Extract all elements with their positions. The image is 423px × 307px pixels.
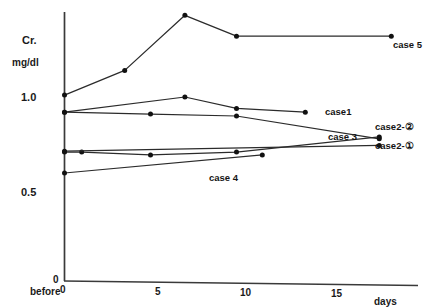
data-point [234,150,239,155]
origin-label: 0 [53,274,59,285]
creatinine-line-chart: Cr. mg/dl 1.0 0.5 0 before 0 5 10 15 day… [0,0,423,307]
series-layer [62,13,394,176]
data-point [389,34,394,39]
data-point [234,34,239,39]
data-point [62,149,67,154]
x-tick-label-5: 5 [155,286,161,297]
series-label-case2-2: case2-② [375,121,414,132]
x-axis-line [64,281,418,286]
x-tick-label-0: 0 [60,284,66,295]
x-tick-label-before: before [30,286,61,297]
data-point [234,106,239,111]
data-point [148,152,153,157]
x-tick-label-15: 15 [331,288,343,299]
series-label-case5: case 5 [393,39,423,50]
x-axis-title-days: days [374,296,397,307]
y-tick-label-0-5: 0.5 [21,186,36,198]
y-axis-title-line2: mg/dl [12,57,39,68]
y-tick-label-1-0: 1.0 [21,91,36,103]
data-point [260,152,265,157]
data-point [122,68,127,73]
series-line-5 [65,155,263,173]
data-point [234,114,239,119]
chart-svg: Cr. mg/dl 1.0 0.5 0 before 0 5 10 15 day… [0,0,423,307]
x-tick-label-10: 10 [240,287,252,298]
data-point [62,93,67,98]
series-label-case2-1: case2-① [375,140,414,151]
y-axis-title-line1: Cr. [22,34,37,46]
data-point [182,95,187,100]
series-label-case3: case 3 [328,131,357,142]
series-line-0 [65,15,392,95]
series-label-case1: case1 [325,106,352,117]
data-point [148,112,153,117]
data-point [377,134,382,139]
data-point [62,171,67,176]
data-point [182,13,187,18]
series-line-4 [65,145,380,151]
series-label-case4: case 4 [209,172,239,183]
data-point [303,110,308,115]
data-point [62,110,67,115]
